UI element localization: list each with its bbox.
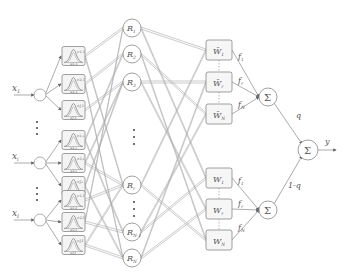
sigma-label: σ2,I: [77, 216, 85, 220]
fuzzy-network-diagram: x1xixIσ1,1u1,1σ2,1u2,1σJ,1uJ,1σ1,iu1,iσ2…: [0, 0, 347, 280]
output-label: y: [324, 137, 330, 146]
sigma-label: σJ,1: [77, 104, 84, 108]
input-label-1: xi: [12, 151, 19, 162]
ellipsis-dots: [36, 121, 135, 217]
input-node: [34, 157, 46, 169]
membership-function-box: σ2,iu2,i: [62, 154, 85, 174]
mean-label: u1,1: [70, 62, 78, 66]
membership-function-box: σ2,1u2,1: [62, 75, 85, 95]
mean-label: uJ,1: [70, 116, 77, 120]
mean-label: u2,I: [70, 228, 78, 232]
sigma-symbol: Σ: [264, 92, 271, 103]
input-node: [34, 89, 46, 101]
firing-label: fN: [237, 100, 245, 110]
input-label-0: x1: [12, 83, 20, 94]
membership-function-box: σ1,iu1,i: [62, 131, 85, 151]
firing-label: fN: [237, 223, 245, 233]
sigma-label: σ1,i: [77, 134, 85, 138]
membership-function-box: σ1,Iu1,I: [62, 191, 85, 211]
membership-function-box: σ2,Iu2,I: [62, 213, 85, 233]
mean-label: u1,i: [70, 146, 78, 150]
membership-function-box: σJ,1uJ,1: [62, 101, 85, 121]
mean-label: u2,i: [70, 169, 78, 173]
mean-label: uJ,I: [70, 251, 77, 255]
sigma-label: σ1,I: [77, 194, 85, 198]
edge-label-q: q: [296, 111, 301, 120]
mean-label: u2,1: [70, 90, 78, 94]
input-label-2: xI: [12, 208, 20, 219]
edge-label-1-q: 1-q: [288, 181, 301, 190]
mean-label: u1,I: [70, 206, 78, 210]
firing-label: fr: [237, 199, 244, 209]
nodes: x1xixIσ1,1u1,1σ2,1u2,1σJ,1uJ,1σ1,iu1,iσ2…: [12, 19, 330, 267]
sigma-symbol: Σ: [304, 145, 311, 156]
sigma-label: σJ,i: [77, 180, 84, 184]
sigma-label: σJ,I: [77, 239, 84, 243]
input-node: [34, 214, 46, 226]
sigma-label: σ2,1: [77, 78, 85, 82]
sigma-label: σ2,i: [77, 157, 85, 161]
firing-label: fr: [237, 76, 244, 86]
firing-label: f1: [237, 176, 244, 186]
firing-label: f1: [237, 52, 244, 62]
sigma-symbol: Σ: [264, 205, 271, 216]
membership-function-box: σJ,IuJ,I: [62, 236, 85, 256]
membership-function-box: σ1,1u1,1: [62, 47, 85, 67]
sigma-label: σ1,1: [77, 50, 85, 54]
